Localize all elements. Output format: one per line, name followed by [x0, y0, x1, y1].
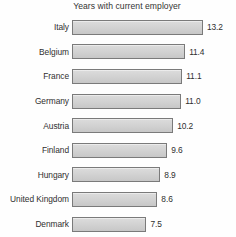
bar: [72, 69, 182, 84]
table-row: Finland 9.6: [0, 138, 236, 163]
bar: [72, 118, 173, 133]
category-label: Italy: [0, 22, 72, 32]
bar-area: 8.6: [72, 192, 236, 207]
category-label: France: [0, 71, 72, 81]
bar: [72, 167, 160, 182]
bar-area: 8.9: [72, 167, 236, 182]
bar-area: 11.1: [72, 69, 236, 84]
value-label: 8.6: [161, 194, 172, 204]
table-row: Austria 10.2: [0, 113, 236, 138]
bar-area: 9.6: [72, 143, 236, 158]
category-label: Belgium: [0, 47, 72, 57]
bar: [72, 192, 157, 207]
category-label: Denmark: [0, 219, 72, 229]
category-label: Finland: [0, 145, 72, 155]
bar-chart: Years with current employer Italy 13.2 B…: [0, 0, 236, 237]
bar: [72, 44, 185, 59]
category-label: Germany: [0, 96, 72, 106]
table-row: Hungary 8.9: [0, 163, 236, 188]
table-row: Italy 13.2: [0, 15, 236, 40]
table-row: Belgium 11.4: [0, 40, 236, 65]
bar-area: 7.5: [72, 217, 236, 232]
category-label: United Kingdom: [0, 194, 72, 204]
value-label: 9.6: [171, 145, 182, 155]
table-row: Denmark 7.5: [0, 212, 236, 237]
category-label: Hungary: [0, 170, 72, 180]
bar: [72, 143, 167, 158]
value-label: 11.4: [189, 47, 204, 57]
category-label: Austria: [0, 121, 72, 131]
value-label: 8.9: [164, 170, 175, 180]
value-label: 7.5: [150, 219, 161, 229]
bar-area: 11.4: [72, 44, 236, 59]
value-label: 10.2: [177, 121, 193, 131]
value-label: 11.0: [185, 96, 200, 106]
bar-area: 11.0: [72, 94, 236, 109]
bar: [72, 217, 146, 232]
bar: [72, 20, 203, 35]
bar-rows: Italy 13.2 Belgium 11.4 France 11.1 Germ…: [0, 15, 236, 236]
bar-area: 13.2: [72, 20, 236, 35]
table-row: France 11.1: [0, 64, 236, 89]
chart-title: Years with current employer: [0, 1, 236, 11]
value-label: 11.1: [186, 71, 201, 81]
table-row: Germany 11.0: [0, 89, 236, 114]
bar-area: 10.2: [72, 118, 236, 133]
table-row: United Kingdom 8.6: [0, 187, 236, 212]
bar: [72, 94, 181, 109]
value-label: 13.2: [207, 22, 223, 32]
